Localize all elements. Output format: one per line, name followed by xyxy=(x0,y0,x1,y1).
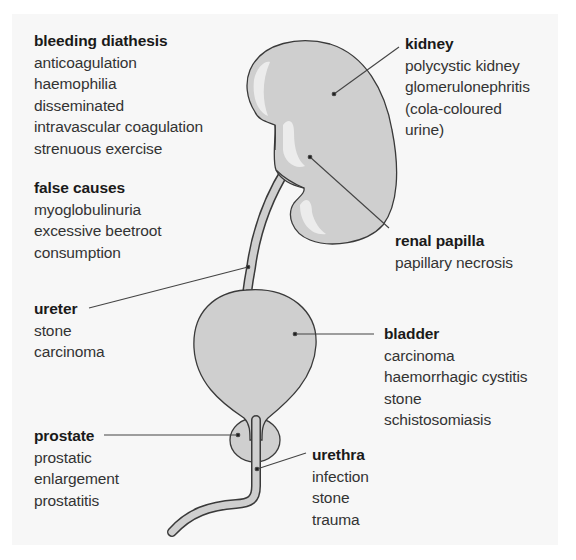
label-item: myoglobulinuria xyxy=(34,199,161,221)
label-item: stone xyxy=(384,388,527,410)
label-title: bleeding diathesis xyxy=(34,30,203,52)
label-title: ureter xyxy=(34,298,105,320)
urethra-point-marker xyxy=(255,467,259,471)
label-bleeding-diathesis: bleeding diathesis anticoagulation haemo… xyxy=(34,30,203,159)
label-item: disseminated xyxy=(34,95,203,117)
label-renal-papilla: renal papilla papillary necrosis xyxy=(395,230,513,273)
label-item: anticoagulation xyxy=(34,52,203,74)
label-bladder: bladder carcinoma haemorrhagic cystitis … xyxy=(384,323,527,431)
label-item: carcinoma xyxy=(384,345,527,367)
label-title: prostate xyxy=(34,425,119,447)
label-item: trauma xyxy=(312,509,369,531)
label-item: carcinoma xyxy=(34,341,105,363)
label-title: kidney xyxy=(405,33,530,55)
label-item: schistosomiasis xyxy=(384,409,527,431)
label-item: haemorrhagic cystitis xyxy=(384,366,527,388)
label-item: prostatitis xyxy=(34,490,119,512)
label-item: infection xyxy=(312,466,369,488)
ureter-point-marker xyxy=(246,265,250,269)
renal-papilla-point-marker xyxy=(308,155,312,159)
label-title: bladder xyxy=(384,323,527,345)
label-title: false causes xyxy=(34,177,161,199)
label-item: papillary necrosis xyxy=(395,252,513,274)
label-item: consumption xyxy=(34,242,161,264)
label-item: (cola-coloured xyxy=(405,98,530,120)
label-item: excessive beetroot xyxy=(34,220,161,242)
kidney-point-marker xyxy=(332,92,336,96)
label-item: haemophilia xyxy=(34,73,203,95)
prostate-point-marker xyxy=(236,433,240,437)
label-false-causes: false causes myoglobulinuria excessive b… xyxy=(34,177,161,263)
label-item: enlargement xyxy=(34,468,119,490)
label-prostate: prostate prostatic enlargement prostatit… xyxy=(34,425,119,511)
label-urethra: urethra infection stone trauma xyxy=(312,444,369,530)
label-item: stone xyxy=(312,487,369,509)
label-title: renal papilla xyxy=(395,230,513,252)
label-item: stone xyxy=(34,320,105,342)
ureter-shape xyxy=(246,168,287,310)
label-item: polycystic kidney xyxy=(405,55,530,77)
label-item: intravascular coagulation xyxy=(34,116,203,138)
label-item: glomerulonephritis xyxy=(405,76,530,98)
label-kidney: kidney polycystic kidney glomerulonephri… xyxy=(405,33,530,141)
label-item: urine) xyxy=(405,119,530,141)
label-item: strenuous exercise xyxy=(34,138,203,160)
label-item: prostatic xyxy=(34,447,119,469)
label-title: urethra xyxy=(312,444,369,466)
label-ureter: ureter stone carcinoma xyxy=(34,298,105,363)
bladder-point-marker xyxy=(293,332,297,336)
